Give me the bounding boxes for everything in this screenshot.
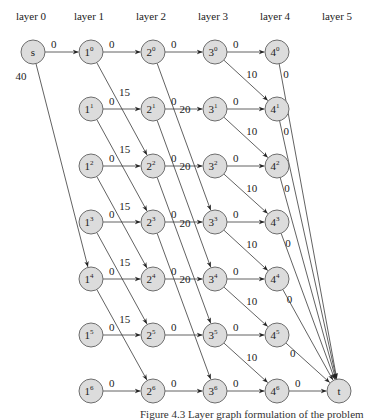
node-superscript: 1	[214, 102, 218, 110]
edge-weight-label: 0	[171, 152, 177, 164]
node-superscript: 2	[152, 159, 156, 167]
node-1-0: 10	[79, 40, 103, 64]
node-2-0: 20	[141, 40, 165, 64]
layer-label-0: layer 0	[16, 10, 47, 22]
edge-weight-label: 0	[290, 347, 296, 359]
edge-weight-label: 0	[109, 321, 115, 333]
node-2-3: 23	[141, 210, 165, 234]
edge-weight-label: 20	[179, 103, 191, 115]
edge-weight-label: 15	[119, 200, 130, 212]
edge-weight-label: 0	[284, 125, 290, 137]
node-superscript: 6	[90, 384, 94, 392]
node-label: t	[337, 385, 340, 397]
node-superscript: 4	[152, 272, 156, 280]
node-superscript: 5	[90, 328, 94, 336]
edge-weight-label: 0	[109, 95, 115, 107]
layer-label-3: layer 3	[198, 10, 229, 22]
edge-weight-label: 20	[179, 273, 191, 285]
node-superscript: 6	[276, 384, 280, 392]
edge-weight-label: 20	[179, 160, 191, 172]
edge-weight-label: 0	[109, 265, 115, 277]
node-superscript: 3	[90, 215, 94, 223]
node-1-1: 11	[79, 97, 103, 121]
edge-weight-label: 15	[119, 143, 130, 155]
edge-weight-label: 0	[233, 152, 239, 164]
edge-weight-label: 0	[109, 377, 115, 389]
node-3-3: 33	[203, 210, 227, 234]
edge-weight-label: 15	[119, 86, 131, 98]
node-3-6: 36	[203, 379, 227, 403]
node-4-4: 44	[265, 267, 289, 291]
node-superscript: 2	[90, 159, 94, 167]
edge-weight-label: 0	[233, 377, 239, 389]
node-1-2: 12	[79, 154, 103, 178]
edge-weight-label: 15	[119, 313, 130, 325]
node-superscript: 6	[214, 384, 218, 392]
edge-2-3-to-3-6	[157, 233, 211, 379]
edge-weight-label: 0	[171, 321, 177, 333]
node-2-1: 21	[141, 97, 165, 121]
node-4-1: 41	[265, 97, 289, 121]
edge-1-1-to-2-3	[97, 120, 147, 212]
node-2-2: 22	[141, 154, 165, 178]
node-3-0: 30	[203, 40, 227, 64]
edge-weight-label: 0	[171, 95, 177, 107]
node-3-4: 34	[203, 267, 227, 291]
node-1-3: 13	[79, 210, 103, 234]
node-4-2: 42	[265, 154, 289, 178]
edge-weight-label: 0	[233, 95, 239, 107]
node-superscript: 3	[152, 215, 156, 223]
edge-weight-label: 0	[283, 68, 289, 80]
edge-weight-label: 40	[16, 70, 28, 82]
node-4-0: 40	[265, 40, 289, 64]
edge-3-0-to-4-1	[224, 60, 268, 100]
edge-weight-label: 0	[109, 208, 115, 220]
edge-weight-label: 0	[233, 321, 239, 333]
edge-weight-label: 10	[246, 182, 258, 194]
edge-weight-label: 0	[171, 265, 177, 277]
edge-weight-label: 10	[246, 238, 258, 250]
node-superscript: 1	[152, 102, 156, 110]
node-label: s	[31, 46, 35, 58]
edge-weight-label: 10	[246, 351, 258, 363]
node-2-4: 24	[141, 267, 165, 291]
edge-weight-label: 0	[233, 208, 239, 220]
edge-weight-label: 0	[51, 38, 57, 50]
edge-weight-label: 0	[109, 152, 115, 164]
edge-weight-label: 0	[285, 237, 291, 249]
node-2-5: 25	[141, 323, 165, 347]
node-4-5: 45	[265, 323, 289, 347]
edge-2-1-to-3-4	[157, 120, 211, 267]
node-1-6: 16	[79, 379, 103, 403]
edge-3-4-to-4-5	[224, 287, 268, 327]
node-superscript: 0	[214, 45, 218, 53]
layer-labels: layer 0layer 1layer 2layer 3layer 4layer…	[16, 10, 353, 22]
node-superscript: 3	[276, 215, 280, 223]
edge-3-3-to-4-4	[224, 230, 268, 270]
node-4-3: 43	[265, 210, 289, 234]
edge-2-0-to-3-3	[157, 63, 211, 210]
layer-label-4: layer 4	[260, 10, 291, 22]
edge-3-1-to-4-2	[224, 117, 268, 157]
edge-2-2-to-3-5	[157, 177, 211, 323]
node-superscript: 4	[90, 272, 94, 280]
node-superscript: 5	[152, 328, 156, 336]
edge-weight-label: 0	[295, 377, 301, 389]
edge-weight-label: 0	[171, 377, 177, 389]
node-superscript: 5	[214, 328, 218, 336]
node-superscript: 6	[152, 384, 156, 392]
edge-weight-label: 0	[171, 38, 177, 50]
node-superscript: 1	[276, 102, 280, 110]
node-superscript: 3	[214, 215, 218, 223]
layer-label-5: layer 5	[322, 10, 353, 22]
edge-weight-label: 0	[233, 265, 239, 277]
node-3-2: 32	[203, 154, 227, 178]
node-superscript: 2	[276, 159, 280, 167]
edge-weight-label: 0	[233, 38, 239, 50]
node-t: t	[327, 379, 351, 403]
node-superscript: 0	[152, 45, 156, 53]
node-superscript: 2	[214, 159, 218, 167]
edge-weight-label: 10	[246, 68, 258, 80]
figure-caption: Figure 4.3 Layer graph formulation of th…	[140, 408, 364, 420]
